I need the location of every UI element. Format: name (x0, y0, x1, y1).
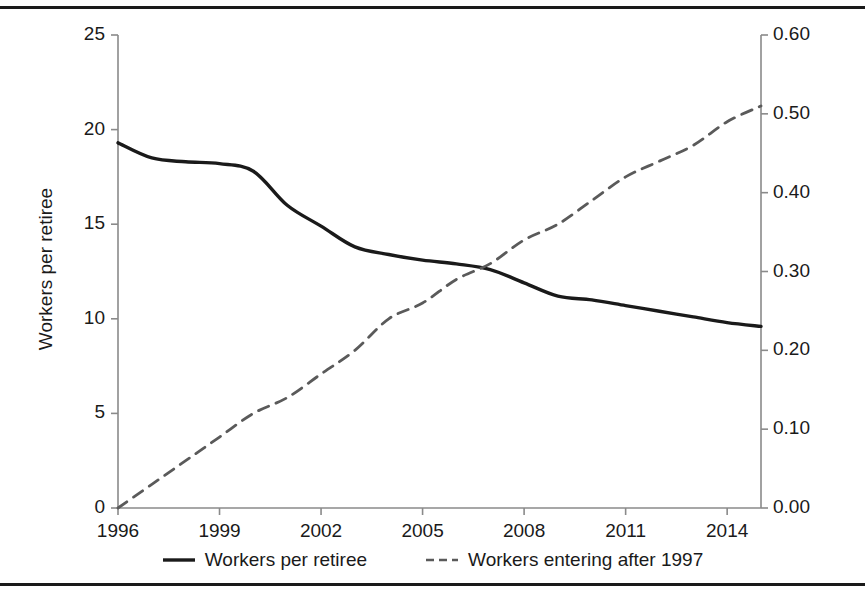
x-tick-label: 2008 (484, 520, 564, 542)
right-tick-label: 0.30 (773, 260, 833, 282)
left-tick-label: 25 (59, 23, 105, 45)
left-axis-title: Workers per retiree (35, 119, 57, 419)
series-line-2 (118, 106, 761, 508)
right-tick-label: 0.00 (773, 496, 833, 518)
x-tick-label: 2011 (586, 520, 666, 542)
left-tick-label: 15 (59, 212, 105, 234)
left-tick-label: 20 (59, 118, 105, 140)
figure-caption (6, 592, 861, 607)
figure-container: Workers per retiree Share of workers who… (0, 0, 865, 610)
x-tick-label: 2005 (383, 520, 463, 542)
chart-legend: Workers per retiree Workers entering aft… (0, 549, 865, 571)
left-tick-label: 0 (59, 496, 105, 518)
x-tick-label: 1999 (180, 520, 260, 542)
legend-swatch-solid (162, 554, 196, 566)
right-tick-label: 0.20 (773, 338, 833, 360)
left-tick-label: 10 (59, 307, 105, 329)
right-tick-label: 0.10 (773, 417, 833, 439)
legend-swatch-dashed (425, 554, 459, 566)
left-tick-label: 5 (59, 401, 105, 423)
bottom-rule (0, 583, 865, 586)
series-line-1 (118, 143, 761, 327)
legend-item-workers-per-retiree: Workers per retiree (162, 549, 367, 571)
right-tick-label: 0.40 (773, 181, 833, 203)
right-tick-label: 0.60 (773, 23, 833, 45)
legend-label-workers-entering-after-1997: Workers entering after 1997 (468, 549, 703, 571)
x-tick-label: 2014 (687, 520, 767, 542)
right-tick-label: 0.50 (773, 102, 833, 124)
legend-label-workers-per-retiree: Workers per retiree (205, 549, 367, 571)
x-tick-label: 1996 (78, 520, 158, 542)
chart-plot-area (0, 0, 865, 610)
legend-item-workers-entering-after-1997: Workers entering after 1997 (425, 549, 703, 571)
x-tick-label: 2002 (281, 520, 361, 542)
